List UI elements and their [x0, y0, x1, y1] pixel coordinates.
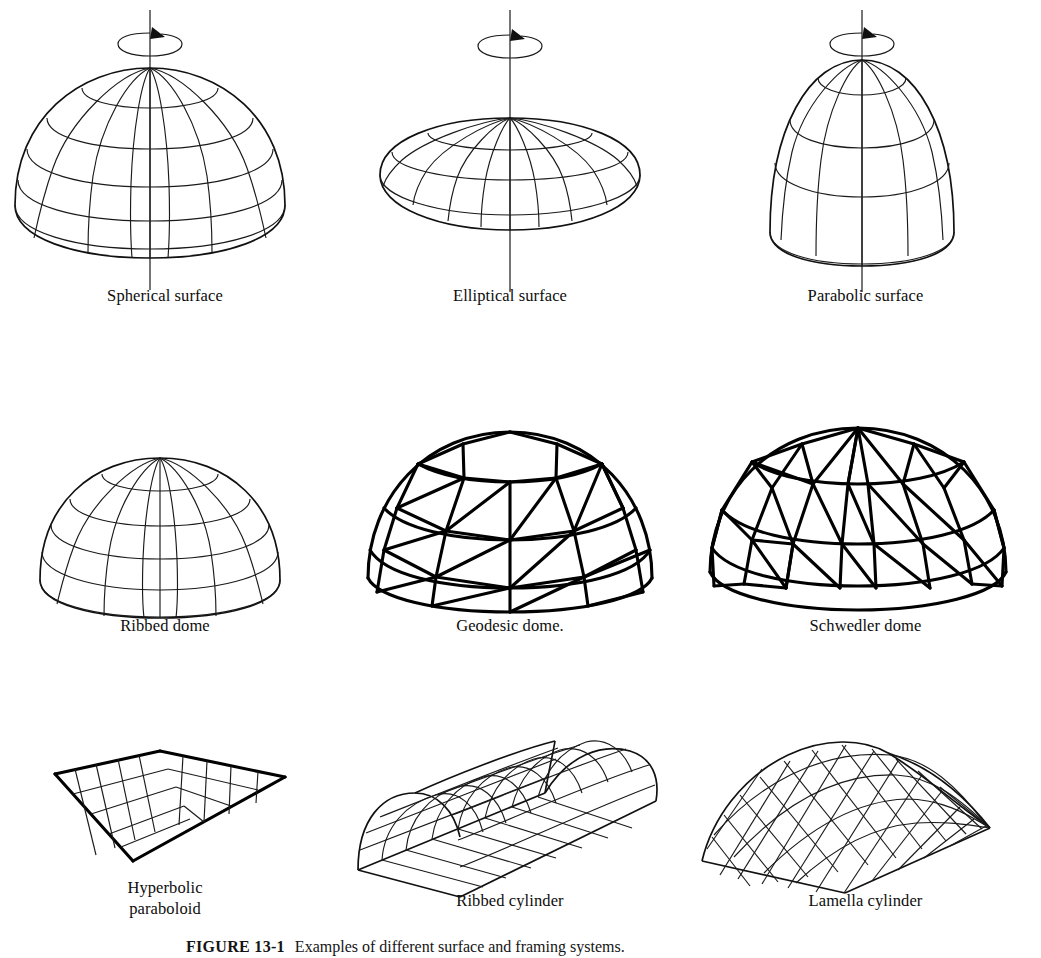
figure-item-geodesic-dome: Geodesic dome. — [340, 400, 680, 650]
figure-item-label: Ribbed cylinder — [340, 891, 680, 911]
figure-item-label: Schwedler dome — [690, 616, 1041, 636]
figure-item-label: Geodesic dome. — [340, 616, 680, 636]
figure-sheet: Spherical surface — [0, 0, 1041, 958]
figure-item-label: Lamella cylinder — [690, 891, 1041, 911]
figure-caption-text: Examples of different surface and framin… — [285, 938, 625, 955]
dome-base-front — [710, 572, 1006, 610]
figure-item-label: Ribbed dome — [0, 616, 330, 636]
meridian-ribs — [781, 60, 943, 266]
transverse-ribs — [382, 741, 632, 887]
longitudinal-purlins — [360, 745, 655, 867]
ribbed-dome-drawing — [0, 400, 330, 620]
geodesic-diagonals — [377, 432, 650, 612]
hyperbolic-paraboloid-drawing — [0, 715, 330, 885]
figure-item-label: Elliptical surface — [340, 286, 680, 306]
figure-item-hyperbolic-paraboloid: Hyperbolic paraboloid — [0, 715, 330, 945]
ribbed-cylinder-drawing — [340, 715, 680, 900]
meridian-ribs — [57, 458, 263, 618]
figure-item-label: Spherical surface — [0, 286, 330, 306]
figure-item-schwedler-dome: Schwedler dome — [690, 400, 1041, 650]
figure-item-lamella-cylinder: Lamella cylinder — [690, 715, 1041, 945]
figure-item-ribbed-dome: Ribbed dome — [0, 400, 330, 650]
hp-grid-v — [75, 755, 258, 855]
hp-edges — [55, 751, 285, 861]
figure-item-parabolic-surface: Parabolic surface — [690, 0, 1041, 320]
geodesic-dome-drawing — [340, 400, 680, 620]
meridian-ribs — [34, 68, 266, 258]
left-springing-edge — [358, 793, 545, 870]
schwedler-rings — [712, 462, 1004, 586]
spherical-surface-drawing — [0, 0, 330, 300]
lamella-boundary — [702, 742, 990, 893]
lamella-cylinder-drawing — [690, 715, 1041, 900]
figure-caption-number: FIGURE 13-1 — [186, 938, 285, 955]
meridian-ribs — [383, 118, 637, 230]
parabolic-surface-drawing — [690, 0, 1041, 300]
lamella-diagonals-a — [712, 745, 990, 886]
schwedler-diagonals — [712, 428, 1004, 588]
figure-item-label: Parabolic surface — [690, 286, 1041, 306]
figure-caption: FIGURE 13-1Examples of different surface… — [0, 938, 1041, 958]
schwedler-dome-drawing — [690, 400, 1041, 620]
figure-item-label: Hyperbolic paraboloid — [0, 877, 330, 919]
figure-item-elliptical-surface: Elliptical surface — [340, 0, 680, 320]
figure-item-ribbed-cylinder: Ribbed cylinder — [340, 715, 680, 945]
dome-outline — [710, 428, 1006, 572]
elliptical-surface-drawing — [340, 0, 680, 300]
figure-item-spherical-surface: Spherical surface — [0, 0, 330, 320]
